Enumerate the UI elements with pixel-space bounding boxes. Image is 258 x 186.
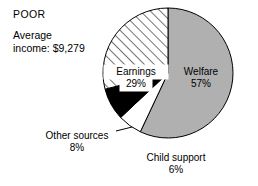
pie-label-welfare-name: Welfare <box>174 66 228 78</box>
pie-label-child-support-value: 6% <box>128 164 224 176</box>
pie-label-child-support: Child support 6% <box>128 152 224 176</box>
pie-label-other-sources-value: 8% <box>34 142 120 154</box>
pie-chart-figure: POOR Average income: $9,279 Earnings 29%… <box>0 0 258 186</box>
pie-label-welfare-value: 57% <box>174 78 228 90</box>
pie-label-child-support-name: Child support <box>128 152 224 164</box>
pie-label-earnings-value: 29% <box>121 78 151 90</box>
pie-label-welfare: Welfare 57% <box>174 66 228 90</box>
pie-label-other-sources: Other sources 8% <box>34 130 120 154</box>
pie-label-earnings: Earnings 29% <box>105 66 167 90</box>
pie-label-earnings-name: Earnings <box>105 66 167 78</box>
pie-label-other-sources-name: Other sources <box>34 130 120 142</box>
